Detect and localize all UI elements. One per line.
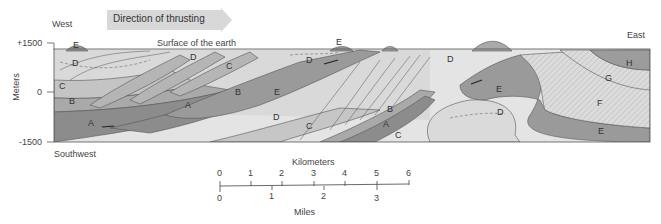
svg-text:D: D xyxy=(497,107,504,117)
svg-text:C: C xyxy=(59,81,66,91)
km-tick-0: 0 xyxy=(217,168,222,178)
svg-text:D: D xyxy=(306,55,313,65)
svg-text:A: A xyxy=(88,118,94,128)
svg-text:F: F xyxy=(597,98,603,108)
km-tick-4: 4 xyxy=(342,168,347,178)
svg-text:D: D xyxy=(72,58,79,68)
svg-text:B: B xyxy=(235,87,241,97)
svg-text:B: B xyxy=(387,104,393,114)
unit-label-e: E xyxy=(73,40,79,50)
svg-text:C: C xyxy=(226,61,233,71)
svg-text:C: C xyxy=(395,130,402,140)
km-title: Kilometers xyxy=(292,157,335,167)
svg-text:G: G xyxy=(605,73,612,83)
mi-tick-3: 3 xyxy=(374,193,379,203)
km-tick-5: 5 xyxy=(374,168,379,178)
svg-text:D: D xyxy=(273,112,280,122)
mi-tick-1: 1 xyxy=(269,191,274,201)
svg-text:E: E xyxy=(598,126,604,136)
cross-section-diagram: E D C B A D A C B E D C D E B A C D E D … xyxy=(0,0,661,224)
svg-text:A: A xyxy=(383,119,389,129)
km-tick-6: 6 xyxy=(406,168,411,178)
strata xyxy=(54,49,650,142)
svg-text:A: A xyxy=(185,100,191,110)
mi-tick-2: 2 xyxy=(321,191,326,201)
svg-text:B: B xyxy=(69,96,75,106)
svg-text:C: C xyxy=(306,121,313,131)
scale-bar xyxy=(220,180,409,192)
svg-text:E: E xyxy=(274,87,280,97)
km-tick-3: 3 xyxy=(311,168,316,178)
y-axis xyxy=(47,43,54,142)
mi-tick-0: 0 xyxy=(217,193,222,203)
svg-text:E: E xyxy=(336,37,342,47)
svg-text:D: D xyxy=(190,52,197,62)
svg-text:E: E xyxy=(496,84,502,94)
svg-text:H: H xyxy=(626,58,633,68)
km-tick-1: 1 xyxy=(248,168,253,178)
km-tick-2: 2 xyxy=(279,168,284,178)
mi-title: Miles xyxy=(294,207,315,217)
svg-text:D: D xyxy=(447,54,454,64)
